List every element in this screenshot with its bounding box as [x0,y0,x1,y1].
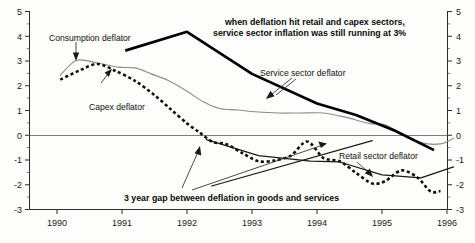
x-tick-1995: 1995 [372,218,392,228]
y-tick-right-neg3: -3 [456,205,464,215]
x-tick-1994: 1994 [307,218,327,228]
headline-line-2: service sector inflation was still runni… [213,28,406,38]
y-tick-left-0: 0 [17,131,22,141]
x-tick-1996: 1996 [437,218,457,228]
label-consumption-deflator: Consumption deflator [49,33,131,43]
x-tick-1990: 1990 [47,218,67,228]
label-service-sector-deflator: Service sector deflator [260,68,346,78]
y-tick-left-neg1: -1 [14,155,22,165]
label-retail-sector-deflator: Retail sector deflator [339,151,418,161]
series-three-year-gap-guide [212,141,373,186]
gap-right-arrow-icon [318,142,327,148]
annotation-leaders [73,42,373,190]
series-service-sector-deflator [125,32,434,150]
y-tick-left-4: 4 [17,32,22,42]
x-tick-1993: 1993 [242,218,262,228]
y-tick-right-5: 5 [456,7,461,17]
label-capex-deflator: Capex deflator [89,102,145,112]
y-tick-right-neg2: -2 [456,180,464,190]
gap-leader-left [182,152,198,188]
y-axis-labels-right: 5 4 3 2 1 0 -1 -2 -3 [456,7,464,215]
y-tick-left-2: 2 [17,81,22,91]
y-ticks-right [448,12,453,210]
y-ticks-left [25,12,30,210]
y-tick-right-0: 0 [456,131,461,141]
gap-leader-right [192,146,320,190]
y-tick-left-3: 3 [17,56,22,66]
y-tick-right-1: 1 [456,106,461,116]
retail-leader-line [357,162,368,172]
y-axis-labels-left: 5 4 3 2 1 0 -1 -2 -3 [14,7,22,215]
capex-leader-line [101,74,108,83]
y-tick-left-neg2: -2 [14,180,22,190]
y-tick-left-5: 5 [17,7,22,17]
service-arrow-icon [266,91,275,99]
y-tick-left-1: 1 [17,106,22,116]
deflator-line-chart: 5 4 3 2 1 0 -1 -2 -3 5 4 3 2 1 0 -1 -2 -… [0,0,475,243]
series-group [60,32,453,193]
y-tick-right-neg1: -1 [456,155,464,165]
y-tick-right-2: 2 [456,81,461,91]
y-tick-right-3: 3 [456,56,461,66]
y-tick-right-4: 4 [456,32,461,42]
headline-line-1: when deflation hit retail and capex sect… [224,17,405,27]
x-ticks [57,210,447,215]
x-tick-1992: 1992 [177,218,197,228]
capex-arrow-icon [105,69,112,77]
y-tick-left-neg3: -3 [14,205,22,215]
series-capex-deflator [60,64,440,192]
x-tick-1991: 1991 [112,218,132,228]
gap-left-arrow-icon [195,146,202,156]
x-axis-labels: 1990 1991 1992 1993 1994 1995 1996 [47,218,457,228]
chart-container: 5 4 3 2 1 0 -1 -2 -3 5 4 3 2 1 0 -1 -2 -… [0,0,475,243]
three-year-gap-note: 3 year gap between deflation in goods an… [124,193,339,203]
